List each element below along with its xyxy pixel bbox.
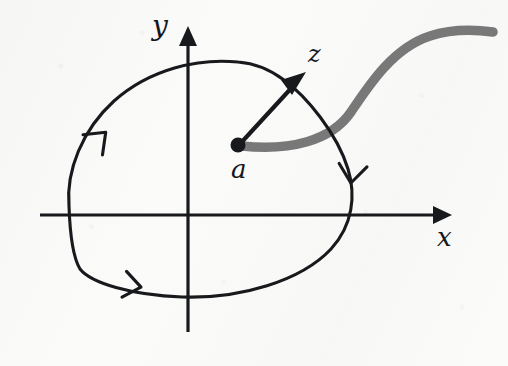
- diagram-svg: [0, 0, 508, 366]
- figure-canvas: y x z a: [0, 0, 508, 366]
- closed-contour-path: [69, 61, 352, 297]
- contour-arrow-right: [337, 163, 367, 184]
- contour-group: [69, 61, 367, 300]
- y-axis-arrowhead: [179, 26, 197, 46]
- branch-cut-curve: [242, 30, 493, 147]
- z-vector-arrowhead: [281, 72, 306, 95]
- y-axis-label: y: [152, 12, 168, 40]
- x-axis-label: x: [437, 224, 452, 250]
- z-vector-label: z: [308, 42, 321, 66]
- z-vector-line: [239, 83, 296, 145]
- z-vector-group: [239, 72, 306, 145]
- branch-point-dot: [231, 138, 246, 153]
- branch-cut-group: [242, 30, 493, 147]
- contour-arrow-upper-left: [83, 122, 115, 155]
- branch-point-label: a: [231, 156, 247, 182]
- contour-arrow-bottom: [122, 271, 143, 300]
